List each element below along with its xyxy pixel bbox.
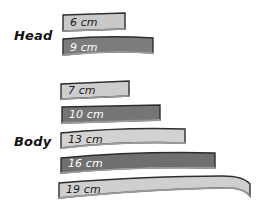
- strip-label: 16 cm: [60, 158, 103, 169]
- strip-head-6cm[interactable]: 6 cm: [62, 12, 126, 32]
- strip-label: 6 cm: [62, 17, 98, 28]
- group-label-head: Head: [14, 28, 53, 43]
- strip-body-10cm[interactable]: 10 cm: [61, 104, 161, 125]
- measurement-strips-figure: Head Body 6 cm 9 cm 7 cm 10 cm: [0, 0, 263, 207]
- strip-body-13cm[interactable]: 13 cm: [60, 128, 186, 150]
- strip-body-16cm[interactable]: 16 cm: [60, 152, 216, 175]
- strip-label: 7 cm: [60, 85, 96, 96]
- strip-label: 19 cm: [58, 184, 101, 195]
- strip-body-19cm[interactable]: 19 cm: [58, 176, 252, 202]
- strip-label: 13 cm: [60, 134, 103, 145]
- strip-body-7cm[interactable]: 7 cm: [60, 80, 130, 100]
- strip-head-9cm[interactable]: 9 cm: [62, 36, 154, 58]
- strip-label: 9 cm: [62, 42, 98, 53]
- strip-label: 10 cm: [61, 109, 104, 120]
- group-label-body: Body: [14, 134, 51, 149]
